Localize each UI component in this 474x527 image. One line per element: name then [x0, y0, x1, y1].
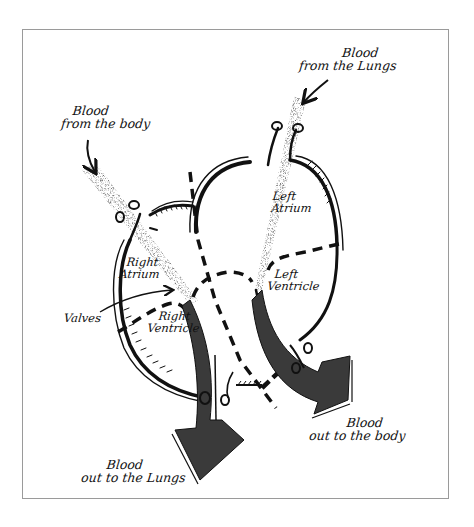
- label-line: Ventricle: [267, 280, 320, 292]
- label-blood-from-body: Blood from the body: [61, 104, 153, 130]
- label-right-ventricle: Right Ventricle: [147, 310, 202, 334]
- valve-dashed-line-center: [193, 272, 252, 297]
- label-line: from the Lungs: [299, 59, 398, 72]
- label-line: from the body: [61, 117, 151, 130]
- label-blood-out-to-lungs: Blood out to the Lungs: [81, 458, 188, 484]
- label-left-atrium: Left Atrium: [271, 190, 314, 214]
- label-line: Valves: [63, 312, 101, 324]
- label-line: Atrium: [271, 202, 312, 214]
- inflow-from-body-stipple: [82, 163, 198, 305]
- label-line: Ventricle: [147, 322, 200, 334]
- label-line: Atrium: [119, 268, 160, 280]
- heart-diagram: [0, 0, 474, 527]
- label-line: out to the body: [309, 429, 407, 442]
- label-valves: Valves: [63, 312, 101, 324]
- label-right-atrium: Right Atrium: [119, 256, 162, 280]
- label-blood-out-to-body: Blood out to the body: [309, 416, 408, 442]
- label-blood-from-lungs: Blood from the Lungs: [299, 46, 399, 72]
- label-line: out to the Lungs: [81, 471, 187, 484]
- label-left-ventricle: Left Ventricle: [267, 268, 322, 292]
- valve-dashed-line-left: [268, 243, 343, 270]
- pointer-arrow-from-lungs: [304, 80, 328, 102]
